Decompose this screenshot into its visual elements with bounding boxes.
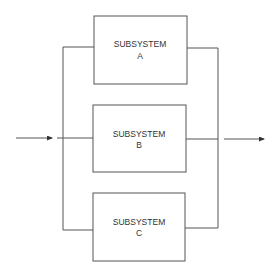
subsystem-b-label-line1: SUBSYSTEM xyxy=(113,129,165,139)
subsystem-a-label-line2: A xyxy=(137,51,143,61)
subsystem-b-label-line2: B xyxy=(136,140,142,150)
parallel-system-diagram: SUBSYSTEM A SUBSYSTEM B SUBSYSTEM C xyxy=(0,0,276,275)
subsystem-a-box xyxy=(94,16,187,84)
subsystem-c-label-line1: SUBSYSTEM xyxy=(113,217,165,227)
subsystem-c-box xyxy=(93,193,185,261)
subsystem-a-label-line1: SUBSYSTEM xyxy=(114,39,166,49)
subsystem-c-label-line2: C xyxy=(136,228,142,238)
